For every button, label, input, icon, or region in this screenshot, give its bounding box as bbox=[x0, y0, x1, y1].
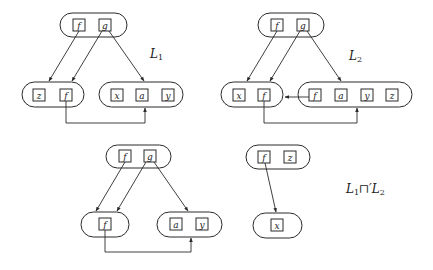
l1-left-node: z f bbox=[22, 82, 84, 107]
meet-edge-g-to-left-f bbox=[117, 162, 146, 211]
meet-edge-g-to-right bbox=[154, 162, 188, 211]
l1-top-node: f g bbox=[60, 13, 127, 37]
l1-right-y: y bbox=[164, 91, 171, 101]
meet2-bottom-node: x bbox=[253, 213, 302, 238]
l1-edge-f-to-left bbox=[49, 31, 79, 81]
meet2-edge-f-to-x bbox=[265, 163, 276, 212]
l2-label: L2 bbox=[348, 49, 362, 64]
meet2-bottom-x: x bbox=[274, 221, 279, 231]
meet2-top-node: f z bbox=[246, 145, 310, 169]
l2-right-z: z bbox=[389, 91, 395, 101]
l2-edge-f-to-left bbox=[247, 31, 277, 81]
l1-label: L1 bbox=[149, 47, 163, 62]
l2-right-node: f a y z bbox=[298, 82, 412, 107]
meet-right-node: a y bbox=[157, 212, 222, 237]
l2-edge-g-to-left-f bbox=[270, 31, 300, 81]
meet-right-y: y bbox=[198, 220, 205, 230]
l1-left-z: z bbox=[36, 91, 42, 101]
meet-top-node: f g bbox=[106, 145, 171, 168]
diagram-l2: f g x f f a y z L2 bbox=[221, 13, 412, 123]
diagram-meet-right: f z x L1⊓′L2 bbox=[246, 145, 385, 238]
l2-right-y: y bbox=[363, 91, 370, 101]
diagram-l1: f g z f x a y L1 bbox=[22, 13, 183, 123]
diagram-meet-left: f g f a y bbox=[81, 145, 222, 252]
meet2-top-z: z bbox=[287, 153, 293, 163]
l2-edge-g-to-right bbox=[307, 31, 341, 81]
l1-right-a: a bbox=[139, 91, 144, 101]
l2-top-g: g bbox=[300, 21, 306, 31]
l1-right-x: x bbox=[114, 91, 119, 101]
meet-edge-f-to-left bbox=[96, 162, 125, 211]
meet-label: L1⊓′L2 bbox=[345, 182, 385, 197]
l2-top-node: f g bbox=[258, 13, 324, 37]
l2-left-node: x f bbox=[221, 82, 283, 107]
l1-right-node: x a y bbox=[99, 82, 183, 107]
l1-edge-g-to-right-a bbox=[109, 31, 144, 81]
l1-edge-g-to-left-f bbox=[72, 31, 102, 81]
l2-right-a: a bbox=[338, 91, 343, 101]
meet-top-g: g bbox=[147, 152, 153, 162]
meet-right-a: a bbox=[173, 220, 178, 230]
l2-left-x: x bbox=[236, 91, 241, 101]
lattice-diagram-canvas: f g z f x a y L1 bbox=[0, 0, 433, 270]
l1-top-g: g bbox=[102, 21, 108, 31]
